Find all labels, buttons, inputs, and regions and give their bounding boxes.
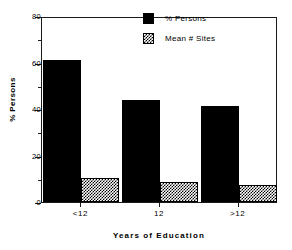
legend-item-label: Mean # Sites: [165, 34, 215, 43]
y-axis-tick-label: 0: [19, 199, 41, 207]
y-axis-tick-label: 60: [19, 60, 41, 68]
x-axis-tick: [159, 203, 160, 207]
x-axis-tick-label: <12: [50, 209, 110, 218]
legend-item: % Persons: [143, 13, 215, 24]
legend-swatch-icon: [143, 13, 154, 24]
x-axis-tick: [238, 203, 239, 207]
y-axis-title: % Persons: [8, 60, 17, 140]
x-axis-tick-label: 12: [129, 209, 189, 218]
y-axis-tick-label: 40: [19, 106, 41, 114]
y-axis-tick-label: 20: [19, 153, 41, 161]
bar-12-series1: [122, 100, 160, 202]
bar-chart-figure: 020406080 % Persons Years of Education %…: [0, 0, 292, 250]
bar-lt12-series2: [81, 178, 119, 202]
legend-swatch-icon: [143, 33, 154, 44]
x-axis-title: Years of Education: [41, 231, 277, 240]
bar-12-series2: [160, 182, 198, 202]
x-axis-tick: [80, 203, 81, 207]
legend-item-label: % Persons: [165, 14, 206, 23]
x-axis-tick-label: >12: [208, 209, 268, 218]
legend-item: Mean # Sites: [143, 33, 215, 44]
bar-gt12-series2: [239, 185, 277, 202]
y-axis-tick-label: 80: [19, 13, 41, 21]
y-axis-ticks: 020406080: [0, 0, 41, 250]
bar-lt12-series1: [43, 60, 81, 202]
bar-gt12-series1: [201, 106, 239, 202]
chart-legend: % PersonsMean # Sites: [143, 13, 215, 53]
